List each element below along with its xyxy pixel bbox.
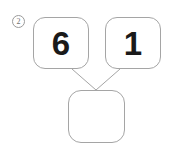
connector-line-part-1 xyxy=(72,69,96,90)
number-bond-part-2-box[interactable]: 1 xyxy=(105,17,161,69)
number-bond-whole-answer-box[interactable] xyxy=(68,90,125,143)
connector-line-part-2 xyxy=(96,69,120,90)
number-bond-part-1-box[interactable]: 6 xyxy=(33,17,89,69)
number-bond-worksheet: 2 6 1 xyxy=(0,0,172,151)
number-bond-part-2-value: 1 xyxy=(124,27,142,60)
number-bond-part-1-value: 6 xyxy=(52,27,70,60)
problem-number-marker: 2 xyxy=(12,15,25,28)
